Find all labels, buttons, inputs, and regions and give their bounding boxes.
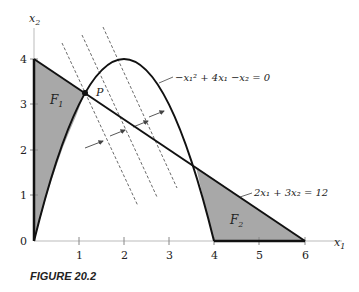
point-p-label: P: [95, 86, 104, 99]
y-tick-0: 0: [20, 235, 27, 248]
line-leader: [240, 193, 252, 197]
y-tick-3: 3: [20, 98, 27, 111]
x1-axis-label: x1: [334, 236, 345, 251]
figure-caption: FIGURE 20.2: [30, 270, 96, 282]
curve-leader: [159, 77, 173, 83]
point-p: [82, 90, 88, 96]
y-tick-2: 2: [20, 144, 27, 157]
x-tick-5: 5: [256, 249, 263, 262]
constraint-line: [34, 59, 305, 241]
x2-axis-label: x2: [29, 12, 40, 27]
x-tick-6: 6: [302, 249, 309, 262]
y-tick-4: 4: [20, 53, 27, 66]
y-tick-1: 1: [20, 189, 27, 202]
curve-equation: −x₁² + 4x₁ −x₂ = 0: [175, 72, 271, 83]
line-equation: 2x₁ + 3x₂ = 12: [253, 187, 328, 198]
x-tick-2: 2: [121, 249, 128, 262]
direction-arrows: [85, 111, 164, 148]
x-tick-3: 3: [166, 249, 173, 262]
x-tick-1: 1: [76, 249, 83, 262]
x-tick-4: 4: [211, 249, 218, 262]
figure-20-2: 0 1 2 3 4 1 2 3 4 5 6 x2 x1 P F1 F2 −x₁²: [0, 0, 359, 292]
